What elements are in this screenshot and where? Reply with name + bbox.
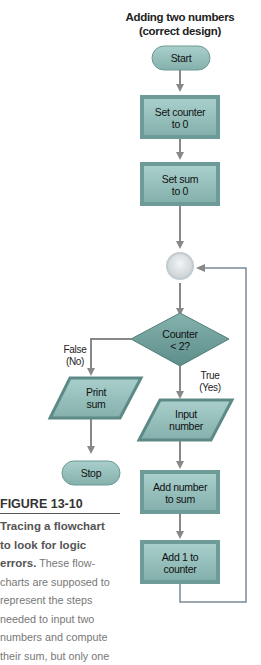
false-line-1: False	[55, 344, 95, 356]
caption-line-5: charts are supposed to	[0, 576, 110, 588]
print-sum-label: Print sum	[60, 386, 132, 410]
input-line-2: number	[150, 420, 222, 432]
start-label: Start	[152, 52, 210, 64]
caption-bold-1: Tracing a flowchart	[0, 520, 105, 532]
add-number-label: Add number to sum	[140, 481, 220, 505]
input-line-1: Input	[150, 408, 222, 420]
set-sum-line-1: Set sum	[140, 173, 220, 185]
figure-caption: Tracing a flowchart to look for logic er…	[0, 517, 124, 665]
add-number-line-1: Add number	[140, 481, 220, 493]
caption-line-8: numbers and compute	[0, 631, 107, 643]
true-line-2: (Yes)	[192, 382, 228, 394]
figure-label: FIGURE 13-10	[0, 497, 120, 514]
set-counter-line-2: to 0	[140, 118, 220, 130]
decision-line-1: Counter	[140, 328, 220, 340]
caption-line-9: their sum, but only one	[0, 650, 109, 662]
print-line-1: Print	[60, 386, 132, 398]
set-counter-label: Set counter to 0	[140, 106, 220, 130]
print-line-2: sum	[60, 398, 132, 410]
add-one-label: Add 1 to counter	[140, 551, 220, 575]
caption-bold-2: to look for logic	[0, 539, 86, 551]
input-number-label: Input number	[150, 408, 222, 432]
decision-label: Counter < 2?	[140, 328, 220, 352]
add-one-line-1: Add 1 to	[140, 551, 220, 563]
connector-circle	[167, 253, 193, 279]
caption-line-4: These flow-	[36, 557, 95, 569]
caption-bold-3: errors.	[0, 557, 36, 569]
decision-line-2: < 2?	[140, 340, 220, 352]
false-branch-label: False (No)	[55, 344, 95, 368]
set-sum-label: Set sum to 0	[140, 173, 220, 197]
add-number-line-2: to sum	[140, 493, 220, 505]
set-counter-line-1: Set counter	[140, 106, 220, 118]
true-line-1: True	[192, 370, 228, 382]
set-sum-line-2: to 0	[140, 185, 220, 197]
add-one-line-2: counter	[140, 563, 220, 575]
caption-line-6: represent the steps	[0, 594, 92, 606]
stop-label: Stop	[62, 467, 120, 479]
caption-line-7: needed to input two	[0, 613, 94, 625]
false-line-2: (No)	[55, 356, 95, 368]
true-branch-label: True (Yes)	[192, 370, 228, 394]
